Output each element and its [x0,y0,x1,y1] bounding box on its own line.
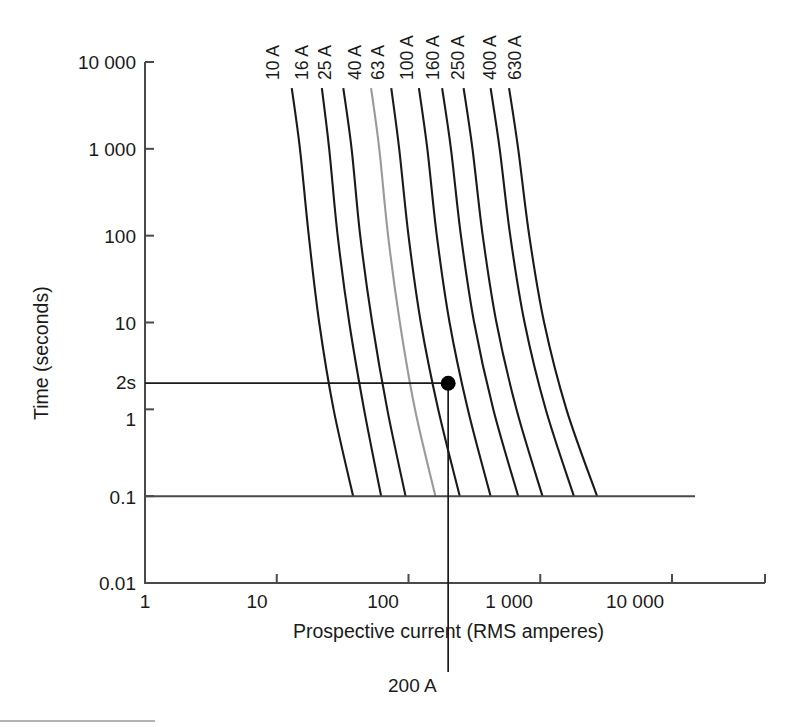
y-tick-label-1000: 1 000 [0,140,136,159]
curve-160a [442,88,518,496]
curve-label-25a: 25 A [317,45,335,80]
chart-plot-area [0,0,802,727]
y-tick-label-1: 1 [0,410,136,429]
curve-label-400a: 400 A [482,35,500,80]
x-tick-label-10: 10 [222,592,292,611]
y-tick-label-0.1: 0.1 [0,488,136,507]
y-tick-label-10000: 10 000 [0,53,136,72]
curve-100a [419,88,491,496]
x-tick-label-10000: 10 000 [590,592,680,611]
operating-point-marker [441,376,456,391]
curve-250a [464,88,543,496]
curve-400a [491,88,574,496]
y-tick-label-0.01: 0.01 [0,574,136,593]
x-tick-label-100: 100 [348,592,418,611]
chart-container: 10 000 1 000 100 10 1 0.1 0.01 2s 1 10 1… [0,0,802,727]
x-marker-label-200a: 200 A [388,676,437,695]
curve-label-10a: 10 A [265,45,283,80]
curve-label-16a: 16 A [294,45,312,80]
y-tick-label-100: 100 [0,227,136,246]
curve-40a [371,88,435,496]
x-axis-title: Prospective current (RMS amperes) [293,622,604,642]
curve-63a [391,88,460,496]
y-axis-title: Time (seconds) [32,286,52,420]
curve-label-40a: 40 A [347,45,365,80]
axis-lines [145,62,765,583]
x-tick-label-1000: 1 000 [469,592,549,611]
curve-label-630a: 630 A [507,35,525,80]
curve-label-160a: 160 A [425,35,443,80]
y-tick-label-10: 10 [0,314,136,333]
curve-label-100a: 100 A [399,35,417,80]
curve-label-63a: 63 A [370,45,388,80]
curves-group [292,88,597,496]
curve-label-250a: 250 A [450,35,468,80]
x-tick-label-1: 1 [110,592,180,611]
y-marker-label-2s: 2s [0,373,136,392]
axes-group [145,62,765,583]
